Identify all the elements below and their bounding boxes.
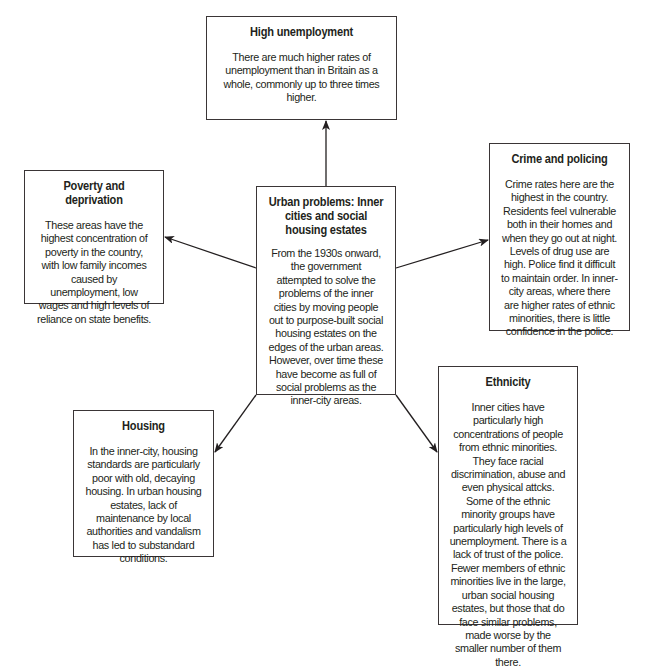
node-title: Housing xyxy=(85,419,202,433)
node-title: Ethnicity xyxy=(450,375,566,389)
node-poverty-and-deprivation: Poverty and deprivation These areas have… xyxy=(24,170,164,304)
central-node-urban-problems: Urban problems: Inner cities and social … xyxy=(256,186,396,395)
node-body: These areas have the highest concentrati… xyxy=(35,218,152,325)
node-body: There are much higher rates of unemploym… xyxy=(219,50,384,104)
arrow-to-crime xyxy=(396,240,488,268)
arrow-to-housing xyxy=(215,395,256,452)
node-title: Crime and policing xyxy=(501,152,618,166)
node-crime-and-policing: Crime and policing Crime rates here are … xyxy=(489,143,630,331)
node-housing: Housing In the inner-city, housing stand… xyxy=(73,410,214,557)
node-ethnicity: Ethnicity Inner cities have particularly… xyxy=(438,366,578,625)
node-title: Poverty and deprivation xyxy=(36,179,152,207)
central-body: From the 1930s onward, the government at… xyxy=(267,246,384,407)
arrow-to-poverty xyxy=(165,237,256,268)
arrow-to-ethnicity xyxy=(396,395,437,452)
node-title: High unemployment xyxy=(220,25,383,39)
node-high-unemployment: High unemployment There are much higher … xyxy=(206,16,397,120)
central-title: Urban problems: Inner cities and social … xyxy=(268,195,384,237)
node-body: In the inner-city, housing standards are… xyxy=(84,444,202,565)
node-body: Inner cities have particularly high conc… xyxy=(449,400,566,668)
node-body: Crime rates here are the highest in the … xyxy=(500,177,618,338)
